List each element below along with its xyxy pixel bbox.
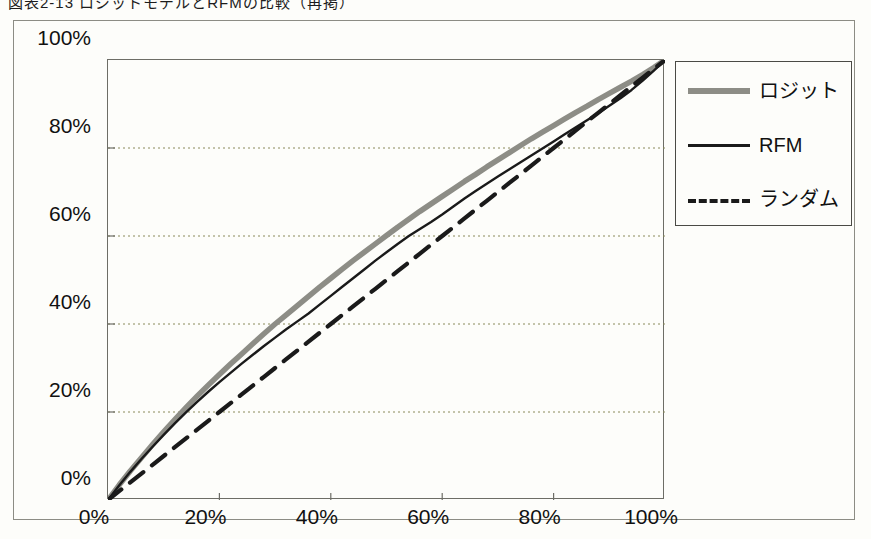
y-axis-tick-label: 60% [7,202,91,226]
x-axis-tick-label: 80% [495,505,585,529]
plot-area [107,59,664,499]
line-swatch-icon [688,84,750,98]
y-axis-tick-label: 40% [7,290,91,314]
legend-item-label: ロジット [759,81,839,101]
legend-item-random: ランダム [676,184,853,214]
y-axis-tick-label: 80% [7,114,91,138]
series-line-ランダム [108,60,665,500]
y-axis-tick-label: 20% [7,378,91,402]
chart-legend: ロジット RFM ランダム [675,61,852,226]
figure-frame: 0%20%40%60%80%100% 0%20%40%60%80%100% ロジ… [13,20,855,520]
dashed-line-swatch-icon [688,192,750,206]
x-axis-tick-label: 20% [160,505,250,529]
legend-item-rfm: RFM [676,130,853,160]
figure-root: 図表2-13 ロジットモデルとRFMの比較（再掲） 0%20%40%60%80%… [0,0,871,539]
x-axis-tick-label: 0% [49,505,139,529]
line-swatch-icon [688,138,750,152]
x-axis-tick-label: 60% [383,505,473,529]
legend-item-label: ランダム [759,189,839,209]
y-axis-tick-label: 100% [7,26,91,50]
legend-item-logit: ロジット [676,76,853,106]
chart-canvas [108,60,665,500]
legend-item-label: RFM [759,135,802,155]
figure-caption: 図表2-13 ロジットモデルとRFMの比較（再掲） [8,0,355,12]
x-axis-tick-label: 40% [272,505,362,529]
x-axis-tick-label: 100% [606,505,696,529]
y-axis-tick-label: 0% [7,466,91,490]
